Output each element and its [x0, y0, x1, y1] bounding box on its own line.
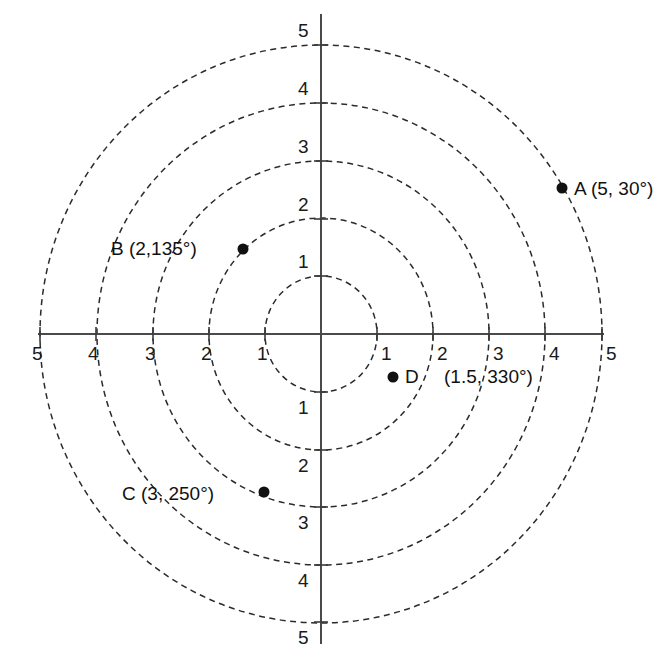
point-label-b: B (2,135°) [111, 239, 197, 258]
data-point-d[interactable] [388, 372, 399, 383]
x-tick-label-pos-1: 1 [381, 344, 392, 363]
x-tick-label-neg-3: 3 [145, 344, 156, 363]
y-tick-label-pos-3: 3 [298, 137, 309, 156]
y-tick-label-pos-2: 2 [298, 195, 309, 214]
data-points [238, 183, 568, 498]
point-label-c: C (3, 250°) [122, 484, 214, 503]
y-tick-label-neg-1: 1 [298, 398, 309, 417]
y-tick-label-pos-1: 1 [298, 252, 309, 271]
data-point-a[interactable] [557, 183, 568, 194]
data-point-b[interactable] [238, 244, 249, 255]
point-label-d: D [405, 367, 419, 386]
data-point-c[interactable] [259, 487, 270, 498]
x-tick-label-pos-5: 5 [606, 344, 617, 363]
x-tick-label-neg-2: 2 [201, 344, 212, 363]
y-tick-label-pos-5: 5 [298, 21, 309, 40]
x-tick-label-neg-4: 4 [88, 344, 99, 363]
x-tick-label-neg-1: 1 [257, 344, 268, 363]
x-tick-label-pos-3: 3 [493, 344, 504, 363]
y-tick-label-neg-5: 5 [298, 628, 309, 647]
point-label-a: A (5, 30°) [574, 179, 653, 198]
y-tick-label-neg-2: 2 [298, 456, 309, 475]
x-tick-label-neg-5: 5 [32, 344, 43, 363]
axes [38, 14, 604, 644]
y-tick-label-neg-3: 3 [298, 513, 309, 532]
y-tick-label-neg-4: 4 [298, 571, 309, 590]
polar-coordinate-chart: 5 4 3 2 1 1 2 3 4 5 5 4 3 2 1 1 2 3 4 5 … [0, 0, 672, 658]
point-label-d-coordinates: (1.5, 330°) [444, 367, 533, 386]
x-tick-label-pos-4: 4 [549, 344, 560, 363]
y-tick-label-pos-4: 4 [298, 79, 309, 98]
polar-plot-canvas [0, 0, 672, 658]
x-tick-label-pos-2: 2 [437, 344, 448, 363]
